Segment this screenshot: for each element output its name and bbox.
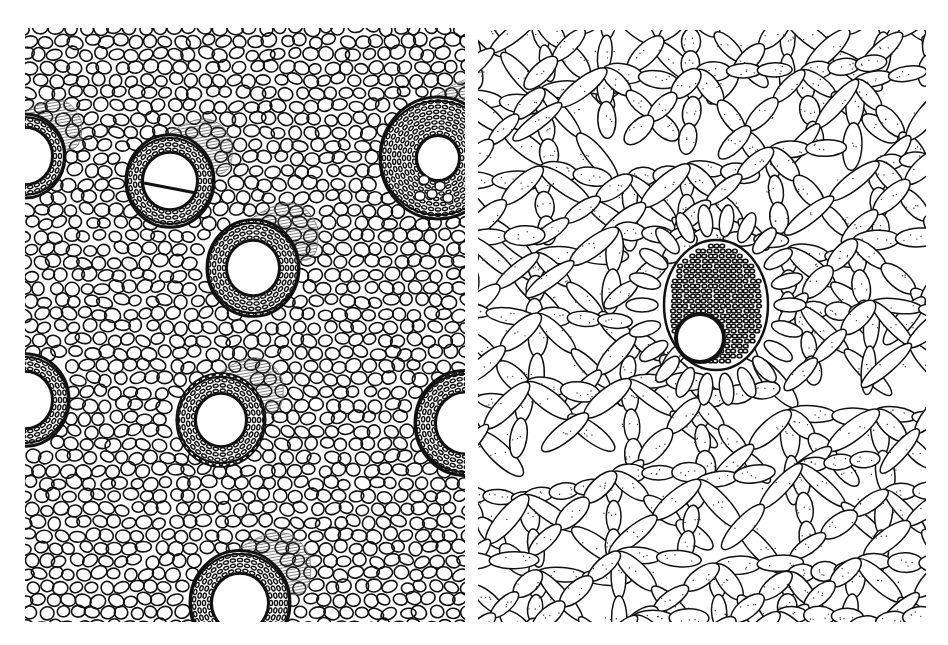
vascular-bundle [25,99,82,198]
vascular-bundle [190,532,311,622]
vascular-bundle [207,203,318,316]
vascular-bundle [126,119,232,227]
aerenchyma-illustration [478,30,926,622]
xylem-vessel [228,242,278,295]
xylem-vessel [197,395,245,445]
xylem-vessel [144,154,196,209]
xylem-vessel [678,316,722,360]
right-cross-section-panel [478,30,926,622]
vascular-bundle [25,354,69,446]
left-cross-section-panel [25,28,465,622]
xylem-vessel [418,137,458,179]
parenchyma-illustration [25,28,465,622]
